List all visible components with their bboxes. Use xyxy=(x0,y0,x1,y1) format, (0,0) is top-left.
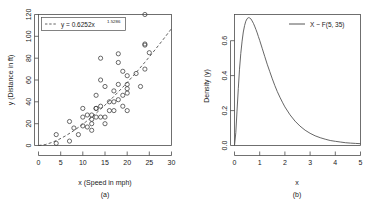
data-point xyxy=(76,133,80,137)
data-point xyxy=(90,117,94,121)
x-tick-label-a-5: 25 xyxy=(145,159,153,166)
x-tick-label-a-6: 30 xyxy=(168,159,176,166)
data-point xyxy=(90,128,94,132)
data-point xyxy=(112,109,116,113)
x-tick-label-b-3: 3 xyxy=(308,159,312,166)
fit-curve-a xyxy=(39,29,172,146)
x-axis-title-b: x xyxy=(295,179,299,186)
x-tick-label-b-0: 0 xyxy=(233,159,237,166)
density-curve-b xyxy=(235,18,361,146)
y-tick-label-b-3: 0.6 xyxy=(221,36,228,46)
y-tick-label-a-0: 0 xyxy=(25,143,32,147)
data-point xyxy=(138,84,142,88)
legend-b: X ~ F(5, 35) xyxy=(289,21,345,29)
data-point xyxy=(94,115,98,119)
y-axis-b: 0.0 0.2 0.4 0.6 xyxy=(221,36,235,151)
data-point xyxy=(103,115,107,119)
y-axis-a: 0 20 40 60 80 100 120 xyxy=(25,9,39,148)
y-tick-label-a-5: 100 xyxy=(25,30,32,42)
data-point xyxy=(125,91,129,95)
data-point xyxy=(81,115,85,119)
data-point xyxy=(72,126,76,130)
y-tick-label-a-4: 80 xyxy=(25,54,32,62)
data-point xyxy=(67,119,71,123)
data-point xyxy=(116,98,120,102)
figure-container: 0 20 40 60 80 100 120 0 5 10 xyxy=(0,0,377,213)
data-point xyxy=(54,141,58,145)
panel-b-density: 0.0 0.2 0.4 0.6 0 1 2 3 4 5 xyxy=(189,0,377,213)
x-axis-a: 0 5 10 15 20 25 30 xyxy=(37,152,176,167)
legend-a: y = 0.6252x 1.5286 xyxy=(42,18,126,31)
plot-frame-b xyxy=(235,15,361,146)
x-tick-label-a-2: 10 xyxy=(79,159,87,166)
data-point xyxy=(99,78,103,82)
data-point xyxy=(125,74,129,78)
data-point xyxy=(103,84,107,88)
data-point xyxy=(67,139,71,143)
scatter-points-a xyxy=(54,12,151,145)
x-tick-label-a-4: 20 xyxy=(123,159,131,166)
y-tick-label-a-2: 40 xyxy=(25,98,32,106)
legend-label-b: X ~ F(5, 35) xyxy=(310,21,345,29)
data-point xyxy=(143,67,147,71)
data-point xyxy=(116,60,120,64)
y-axis-title-b: Density (y) xyxy=(203,69,211,102)
data-point xyxy=(94,93,98,97)
panel-a-svg: 0 20 40 60 80 100 120 0 5 10 xyxy=(0,0,188,213)
data-point xyxy=(107,109,111,113)
legend-label-a-exponent: 1.5286 xyxy=(107,19,121,24)
data-point xyxy=(112,100,116,104)
panel-b-svg: 0.0 0.2 0.4 0.6 0 1 2 3 4 5 xyxy=(189,0,377,213)
data-point xyxy=(90,113,94,117)
data-point xyxy=(125,109,129,113)
x-tick-label-a-0: 0 xyxy=(37,159,41,166)
data-point xyxy=(121,104,125,108)
data-point xyxy=(147,51,151,55)
data-point xyxy=(116,52,120,56)
data-point xyxy=(99,56,103,60)
x-tick-label-b-5: 5 xyxy=(359,159,363,166)
legend-label-a: y = 0.6252x xyxy=(61,21,96,29)
y-tick-label-b-1: 0.2 xyxy=(221,106,228,116)
data-point xyxy=(112,89,116,93)
y-tick-label-a-3: 60 xyxy=(25,76,32,84)
data-point xyxy=(125,87,129,91)
x-axis-b: 0 1 2 3 4 5 xyxy=(233,152,363,167)
x-tick-label-b-4: 4 xyxy=(333,159,337,166)
data-point xyxy=(85,125,89,129)
panel-a-scatter: 0 20 40 60 80 100 120 0 5 10 xyxy=(0,0,188,213)
data-point xyxy=(134,71,138,75)
y-tick-label-a-6: 120 xyxy=(25,9,32,21)
data-point xyxy=(99,115,103,119)
data-point xyxy=(94,106,98,110)
panel-label-a: (a) xyxy=(101,191,110,199)
y-tick-label-b-0: 0.0 xyxy=(221,141,228,151)
x-tick-label-a-3: 15 xyxy=(101,159,109,166)
x-tick-label-a-1: 5 xyxy=(59,159,63,166)
data-point xyxy=(121,69,125,73)
x-tick-label-b-2: 2 xyxy=(283,159,287,166)
x-tick-label-b-1: 1 xyxy=(258,159,262,166)
panel-label-b: (b) xyxy=(293,191,302,199)
y-tick-label-a-1: 20 xyxy=(25,120,32,128)
y-axis-title-a: y (Distance in ft) xyxy=(7,55,15,106)
data-point xyxy=(116,82,120,86)
data-point xyxy=(81,106,85,110)
data-point xyxy=(85,113,89,117)
x-axis-title-a: x (Speed in mph) xyxy=(78,179,131,187)
data-point xyxy=(121,93,125,97)
data-point xyxy=(90,122,94,126)
data-point xyxy=(54,133,58,137)
data-point xyxy=(99,104,103,108)
y-tick-label-b-2: 0.4 xyxy=(221,71,228,81)
data-point xyxy=(103,122,107,126)
